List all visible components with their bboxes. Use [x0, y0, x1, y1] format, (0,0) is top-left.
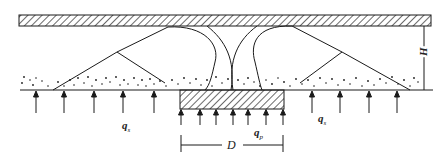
label-qs-right: qs — [318, 113, 326, 127]
arch-lines — [53, 26, 410, 90]
label-qp: qp — [254, 127, 263, 141]
qs-left-subscript: s — [128, 126, 131, 134]
diagram-canvas: H qs qs qp D — [0, 0, 447, 166]
qp-subscript: p — [260, 133, 264, 141]
diagram-svg — [0, 0, 447, 166]
pile-cap — [180, 90, 284, 109]
soil-arrows-left — [34, 91, 157, 113]
label-qs-left: qs — [122, 120, 130, 134]
soil-stipple — [21, 76, 419, 87]
pile-arrows — [179, 110, 286, 126]
qs-right-subscript: s — [324, 119, 327, 127]
label-h: H — [418, 46, 429, 57]
soil-arrows-right — [310, 91, 400, 113]
label-d: D — [227, 139, 236, 151]
top-slab — [19, 15, 431, 26]
